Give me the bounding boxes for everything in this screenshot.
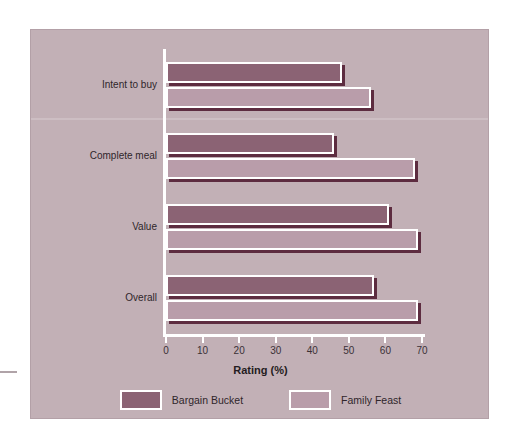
x-tick-label: 10 <box>197 345 208 356</box>
x-tick-mark <box>311 337 313 343</box>
x-axis-title: Rating (%) <box>31 364 490 376</box>
x-tick-mark <box>238 337 240 343</box>
legend-swatch <box>289 390 331 410</box>
page-left-rule <box>0 371 17 373</box>
plot-area: 010203040506070 Intent to buyComplete me… <box>166 49 422 334</box>
x-tick-mark <box>384 337 386 343</box>
x-tick-mark <box>165 337 167 343</box>
x-tick-label: 50 <box>343 345 354 356</box>
x-tick-mark <box>421 337 423 343</box>
x-tick-mark <box>202 337 204 343</box>
bar-bargain-bucket[interactable] <box>166 204 389 225</box>
x-tick-label: 0 <box>163 345 169 356</box>
category-label: Overall <box>125 292 157 303</box>
chart-legend: Bargain BucketFamily Feast <box>31 390 490 410</box>
category-label: Complete meal <box>90 150 157 161</box>
x-tick-label: 60 <box>380 345 391 356</box>
category-label: Intent to buy <box>102 79 157 90</box>
bar-bargain-bucket[interactable] <box>166 62 342 83</box>
x-tick-label: 30 <box>270 345 281 356</box>
x-tick-label: 40 <box>307 345 318 356</box>
x-tick-label: 70 <box>416 345 427 356</box>
chart-panel: 010203040506070 Intent to buyComplete me… <box>30 29 489 419</box>
bar-bargain-bucket[interactable] <box>166 275 374 296</box>
bar-bargain-bucket[interactable] <box>166 133 334 154</box>
bar-family-feast[interactable] <box>166 229 418 250</box>
x-tick-mark <box>275 337 277 343</box>
legend-label: Bargain Bucket <box>172 394 243 406</box>
legend-swatch <box>120 390 162 410</box>
bar-group: Overall <box>166 263 422 334</box>
bar-group: Value <box>166 192 422 263</box>
category-label: Value <box>132 221 157 232</box>
legend-item[interactable]: Bargain Bucket <box>120 390 243 410</box>
x-tick-label: 20 <box>234 345 245 356</box>
bar-group: Complete meal <box>166 120 422 191</box>
legend-item[interactable]: Family Feast <box>289 390 401 410</box>
bar-family-feast[interactable] <box>166 300 418 321</box>
x-tick-mark <box>348 337 350 343</box>
bar-family-feast[interactable] <box>166 158 415 179</box>
bar-family-feast[interactable] <box>166 87 371 108</box>
legend-label: Family Feast <box>341 394 401 406</box>
bar-group: Intent to buy <box>166 49 422 120</box>
